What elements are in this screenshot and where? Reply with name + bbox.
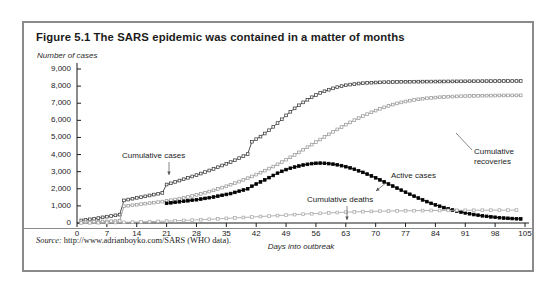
- data-point-marker: [477, 80, 480, 83]
- data-point-marker: [263, 169, 266, 172]
- data-point-marker: [135, 203, 138, 206]
- annotation-label: Active cases: [391, 171, 436, 181]
- data-point-marker: [515, 217, 518, 220]
- data-point-marker: [268, 215, 271, 218]
- x-tick-label: 42: [243, 229, 269, 238]
- data-point-marker: [370, 111, 373, 114]
- data-point-marker: [417, 197, 420, 200]
- data-point-marker: [408, 193, 411, 196]
- data-point-marker: [340, 126, 343, 129]
- data-point-marker: [216, 166, 219, 169]
- data-point-marker: [97, 217, 100, 220]
- annotation-label: Cumulativerecoveries: [474, 147, 514, 166]
- data-point-marker: [263, 179, 266, 182]
- data-point-marker: [212, 189, 215, 192]
- data-point-marker: [170, 182, 173, 185]
- data-point-marker: [379, 81, 382, 84]
- data-point-marker: [144, 195, 147, 198]
- series-line: [81, 210, 516, 223]
- data-point-marker: [187, 196, 190, 199]
- data-point-marker: [263, 132, 266, 135]
- data-point-marker: [216, 195, 219, 198]
- data-point-marker: [276, 172, 279, 175]
- data-point-marker: [468, 212, 471, 215]
- y-tick-label: 8,000: [37, 81, 71, 90]
- data-point-marker: [88, 218, 91, 221]
- data-point-marker: [498, 209, 501, 212]
- data-point-marker: [225, 162, 228, 165]
- data-point-marker: [302, 213, 305, 216]
- data-point-marker: [374, 81, 377, 84]
- x-tick-label: 56: [303, 229, 329, 238]
- data-point-marker: [148, 202, 151, 205]
- data-point-marker: [336, 86, 339, 89]
- data-point-marker: [229, 192, 232, 195]
- data-point-marker: [310, 162, 313, 165]
- data-point-marker: [421, 199, 424, 202]
- data-point-marker: [421, 97, 424, 100]
- data-point-marker: [455, 209, 458, 212]
- source-url-text: http://www.adrianboyko.com/SARS (WHO dat…: [62, 236, 231, 245]
- annotation-label: Cumulative deaths: [307, 195, 373, 205]
- data-point-marker: [507, 94, 510, 97]
- data-point-marker: [383, 181, 386, 184]
- data-point-marker: [507, 80, 510, 83]
- data-point-marker: [310, 96, 313, 99]
- data-point-marker: [391, 103, 394, 106]
- data-point-marker: [404, 80, 407, 83]
- data-point-marker: [396, 187, 399, 190]
- data-point-marker: [519, 80, 522, 83]
- data-point-marker: [443, 96, 446, 99]
- data-point-marker: [131, 204, 134, 207]
- x-tick-label: 63: [333, 229, 359, 238]
- data-point-marker: [170, 201, 173, 204]
- annotation-arrowhead: [345, 217, 348, 220]
- data-point-marker: [519, 218, 522, 221]
- data-point-marker: [438, 80, 441, 83]
- data-point-marker: [408, 80, 411, 83]
- data-point-marker: [451, 95, 454, 98]
- data-point-marker: [327, 212, 330, 215]
- data-point-marker: [182, 200, 185, 203]
- data-point-marker: [238, 157, 241, 160]
- data-point-marker: [182, 178, 185, 181]
- data-point-marker: [251, 216, 254, 219]
- y-tick-label: 1,000: [37, 201, 71, 210]
- data-point-marker: [191, 175, 194, 178]
- source-note: Source: http://www.adrianboyko.com/SARS …: [36, 236, 231, 245]
- data-point-marker: [404, 100, 407, 103]
- data-point-marker: [379, 108, 382, 111]
- data-point-marker: [357, 169, 360, 172]
- data-point-marker: [123, 199, 126, 202]
- data-point-marker: [191, 199, 194, 202]
- data-point-marker: [315, 162, 318, 165]
- data-point-marker: [272, 165, 275, 168]
- data-point-marker: [472, 213, 475, 216]
- data-point-marker: [490, 215, 493, 218]
- data-point-marker: [507, 209, 510, 212]
- data-point-marker: [161, 200, 164, 203]
- data-point-marker: [447, 95, 450, 98]
- data-point-marker: [319, 162, 322, 165]
- data-point-marker: [387, 105, 390, 108]
- annotation-text-line: Cumulative deaths: [307, 195, 373, 205]
- data-point-marker: [472, 209, 475, 212]
- data-point-marker: [80, 222, 83, 225]
- data-point-marker: [242, 189, 245, 192]
- data-point-marker: [481, 214, 484, 217]
- data-point-marker: [481, 94, 484, 97]
- data-point-marker: [298, 151, 301, 154]
- data-point-marker: [310, 143, 313, 146]
- data-point-marker: [212, 196, 215, 199]
- data-point-marker: [93, 217, 96, 220]
- data-point-marker: [374, 109, 377, 112]
- data-point-marker: [208, 196, 211, 199]
- data-point-marker: [195, 194, 198, 197]
- data-point-marker: [298, 165, 301, 168]
- data-point-marker: [285, 158, 288, 161]
- x-tick-label: 98: [482, 229, 508, 238]
- data-point-marker: [315, 141, 318, 144]
- data-point-marker: [106, 221, 109, 224]
- y-tick-label: 6,000: [37, 115, 71, 124]
- data-point-marker: [383, 106, 386, 109]
